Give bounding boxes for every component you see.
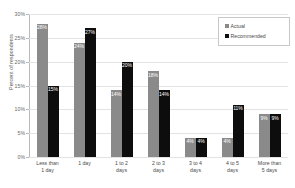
- y-axis-tick-label: 15%: [15, 83, 25, 89]
- y-axis-tick: [26, 62, 29, 63]
- gridline: [29, 62, 288, 63]
- y-axis-tick: [26, 109, 29, 110]
- bar-recommended: 11%: [233, 105, 244, 157]
- y-axis-tick-label: 20%: [15, 59, 25, 65]
- x-axis-category-label: 1 day: [66, 160, 103, 167]
- y-axis-tick: [26, 157, 29, 158]
- x-axis-category-label: 2 to 3 days: [140, 160, 177, 173]
- bar-recommended: 15%: [48, 86, 59, 158]
- bar-actual: 4%: [222, 138, 233, 157]
- y-axis-tick-label: 5%: [18, 130, 26, 136]
- bar-value-label: 27%: [85, 30, 95, 35]
- bar-value-label: 4%: [186, 139, 193, 144]
- y-axis-tick-label: 30%: [15, 11, 25, 17]
- bar-value-label: 14%: [159, 92, 169, 97]
- x-axis-category-label: Less than 1 day: [29, 160, 66, 173]
- x-axis-category-label: 3 to 4 days: [177, 160, 214, 173]
- bar-actual: 24%: [74, 43, 85, 157]
- x-axis-category-label: 4 to 5 days: [214, 160, 251, 173]
- bar-recommended: 4%: [196, 138, 207, 157]
- bar-value-label: 4%: [223, 139, 230, 144]
- bar-recommended: 27%: [85, 28, 96, 157]
- bar-value-label: 24%: [74, 44, 84, 49]
- bar-value-label: 9%: [260, 116, 267, 121]
- legend-entry-actual: Actual: [225, 23, 245, 29]
- bar-actual: 4%: [185, 138, 196, 157]
- x-axis-category-label: 1 to 2 days: [103, 160, 140, 173]
- legend-swatch-recommended: [225, 34, 229, 38]
- bar-value-label: 20%: [122, 63, 132, 68]
- legend-label-actual: Actual: [231, 23, 245, 29]
- legend-label-recommended: Recommended: [231, 33, 266, 39]
- y-axis-tick: [26, 86, 29, 87]
- bar-chart: Percent of respondents 0%5%10%15%20%25%3…: [0, 0, 295, 188]
- y-axis-tick-label: 10%: [15, 106, 25, 112]
- y-axis-tick: [26, 38, 29, 39]
- legend-entry-recommended: Recommended: [225, 33, 266, 39]
- bar-actual: 28%: [37, 24, 48, 157]
- y-axis-tick-label: 0%: [18, 154, 26, 160]
- bar-actual: 18%: [148, 71, 159, 157]
- bar-recommended: 20%: [122, 62, 133, 157]
- bar-actual: 14%: [111, 90, 122, 157]
- bar-value-label: 14%: [111, 92, 121, 97]
- bar-actual: 9%: [259, 114, 270, 157]
- y-axis-tick-label: 25%: [15, 35, 25, 41]
- bar-value-label: 28%: [37, 25, 47, 30]
- chart-legend: Actual Recommended: [218, 17, 290, 46]
- x-axis-category-label: More than 5 days: [251, 160, 288, 173]
- gridline: [29, 157, 288, 158]
- legend-swatch-actual: [225, 24, 229, 28]
- bar-value-label: 11%: [233, 106, 243, 111]
- bar-value-label: 4%: [197, 139, 204, 144]
- bar-recommended: 9%: [270, 114, 281, 157]
- gridline: [29, 14, 288, 15]
- gridline: [29, 86, 288, 87]
- bar-value-label: 15%: [48, 87, 58, 92]
- bar-value-label: 18%: [148, 73, 158, 78]
- y-axis-tick: [26, 133, 29, 134]
- bar-recommended: 14%: [159, 90, 170, 157]
- bar-value-label: 9%: [271, 116, 278, 121]
- y-axis-tick: [26, 14, 29, 15]
